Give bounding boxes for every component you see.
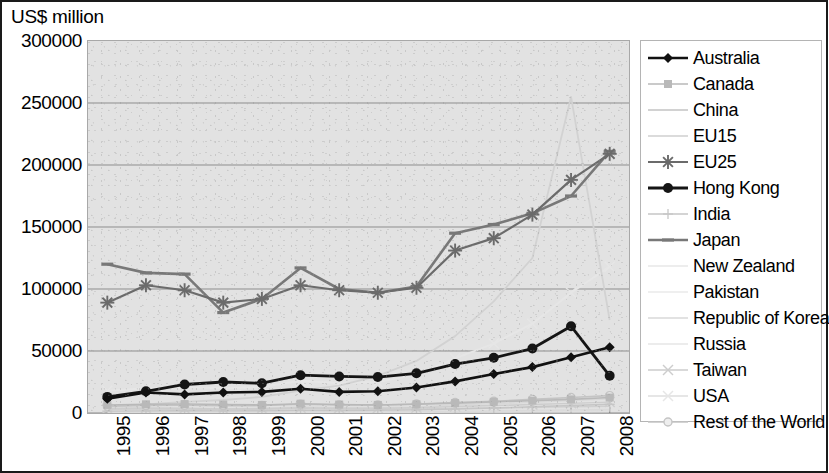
legend-key-icon [646, 204, 690, 224]
data-point-marker [662, 238, 674, 241]
data-point-marker [527, 344, 537, 354]
data-point-marker [567, 395, 575, 403]
data-point-marker [374, 401, 382, 409]
legend-key-icon [646, 256, 690, 276]
x-axis-tick-labels: 1995199619971998199920002001200220032004… [87, 416, 630, 473]
data-point-marker [334, 371, 344, 381]
data-point-marker [412, 400, 420, 408]
series-line [107, 154, 609, 303]
x-tick-label: 1999 [269, 416, 288, 456]
y-tick-label: 250000 [2, 93, 82, 112]
x-tick-label: 2003 [423, 416, 442, 456]
legend-key-icon [646, 360, 690, 380]
data-point-marker [373, 372, 383, 382]
data-point-marker [296, 384, 306, 394]
series-hong-kong [102, 321, 614, 402]
data-point-marker [411, 368, 421, 378]
x-tick-label: 1998 [230, 416, 249, 456]
legend-item-label: Hong Kong [690, 179, 779, 197]
legend-item-label: Republic of Korea [690, 309, 829, 327]
data-point-marker [663, 53, 673, 63]
legend-item-usa[interactable]: USA [641, 383, 821, 409]
legend-item-republic-of-korea[interactable]: Republic of Korea [641, 305, 821, 331]
plot-svg [88, 41, 629, 413]
legend-item-eu25[interactable]: EU25 [641, 149, 821, 175]
data-point-marker [258, 401, 266, 409]
y-tick-label: 300000 [2, 31, 82, 50]
legend-key-icon [646, 412, 690, 432]
data-point-marker [566, 352, 576, 362]
x-tick-label: 2004 [462, 416, 481, 456]
legend-item-india[interactable]: India [641, 201, 821, 227]
x-tick-label: 2007 [578, 416, 597, 456]
legend-item-label: Russia [690, 335, 746, 353]
data-point-marker [451, 399, 459, 407]
legend-item-rest-of-the-world[interactable]: Rest of the World [641, 409, 821, 435]
legend-key-icon [646, 74, 690, 94]
x-tick-label: 2006 [539, 416, 558, 456]
legend-key-icon [646, 100, 690, 120]
data-point-marker [217, 311, 229, 314]
data-point-marker [219, 401, 227, 409]
legend-item-label: EU25 [690, 153, 736, 171]
data-point-marker [180, 379, 190, 389]
legend-item-australia[interactable]: Australia [641, 45, 821, 71]
legend-item-label: Japan [690, 231, 740, 249]
y-axis-title: US$ million [11, 6, 104, 27]
y-tick-label: 0 [2, 403, 82, 422]
legend-key-icon [646, 48, 690, 68]
legend-item-hong-kong[interactable]: Hong Kong [641, 175, 821, 201]
data-point-marker [488, 223, 500, 226]
data-point-marker [664, 80, 672, 88]
data-point-marker [181, 400, 189, 408]
series-line [107, 97, 609, 407]
data-point-marker [489, 353, 499, 363]
data-point-marker [565, 194, 577, 197]
legend-item-china[interactable]: China [641, 97, 821, 123]
data-point-marker [663, 183, 673, 193]
x-tick-label: 2008 [617, 416, 636, 456]
legend-key-icon [646, 178, 690, 198]
chart-legend: AustraliaCanadaChinaEU15EU25Hong KongInd… [640, 40, 822, 422]
legend-item-label: New Zealand [690, 257, 795, 275]
y-axis-tick-labels: 300000250000200000150000100000500000 [2, 40, 82, 414]
data-point-marker [606, 394, 614, 402]
data-point-marker [664, 418, 672, 426]
legend-key-icon [646, 386, 690, 406]
data-point-marker [295, 266, 307, 269]
x-tick-label: 2002 [385, 416, 404, 456]
legend-item-label: Rest of the World [690, 413, 825, 431]
data-point-marker [411, 383, 421, 393]
data-point-marker [450, 376, 460, 386]
data-point-marker [334, 387, 344, 397]
legend-item-label: Pakistan [690, 283, 759, 301]
legend-item-eu15[interactable]: EU15 [641, 123, 821, 149]
data-point-marker [450, 359, 460, 369]
legend-item-taiwan[interactable]: Taiwan [641, 357, 821, 383]
legend-item-pakistan[interactable]: Pakistan [641, 279, 821, 305]
y-tick-label: 100000 [2, 279, 82, 298]
data-point-marker [528, 397, 536, 405]
data-point-marker [296, 370, 306, 380]
legend-item-russia[interactable]: Russia [641, 331, 821, 357]
legend-item-label: EU15 [690, 127, 736, 145]
legend-item-label: India [690, 205, 730, 223]
legend-key-icon [646, 334, 690, 354]
data-point-marker [142, 400, 150, 408]
y-tick-label: 50000 [2, 341, 82, 360]
legend-item-label: China [690, 101, 738, 119]
legend-item-new-zealand[interactable]: New Zealand [641, 253, 821, 279]
legend-key-icon [646, 230, 690, 250]
series-china [107, 97, 609, 407]
data-point-marker [490, 398, 498, 406]
y-tick-label: 150000 [2, 217, 82, 236]
legend-item-japan[interactable]: Japan [641, 227, 821, 253]
plot-area [87, 40, 630, 414]
x-tick-label: 2001 [346, 416, 365, 456]
data-point-marker [257, 378, 267, 388]
series-line [107, 347, 609, 398]
legend-item-label: Taiwan [690, 361, 747, 379]
data-point-marker [489, 369, 499, 379]
legend-item-canada[interactable]: Canada [641, 71, 821, 97]
